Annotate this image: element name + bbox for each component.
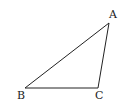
vertex-label-b: B bbox=[17, 89, 25, 102]
triangle-diagram: A B C bbox=[0, 0, 137, 107]
triangle-abc bbox=[25, 23, 109, 88]
vertex-label-a: A bbox=[108, 8, 118, 21]
vertex-label-c: C bbox=[95, 89, 103, 102]
